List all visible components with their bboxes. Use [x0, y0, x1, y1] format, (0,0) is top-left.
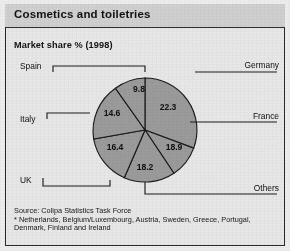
country-label-uk: UK [20, 175, 32, 185]
page-title: Cosmetics and toiletries [14, 8, 151, 20]
footnote-note-line-2: Denmark, Finland and Ireland [14, 224, 280, 233]
country-label-italy: Italy [20, 114, 36, 124]
leader-line-uk [43, 178, 110, 186]
slice-value-france: 18.9 [166, 142, 183, 152]
slice-value-uk: 16.4 [107, 142, 124, 152]
pie-chart-plot: 22.3 18.9 18.2 16.4 14.6 9.8 [5, 28, 285, 203]
country-label-germany: Germany [245, 60, 280, 70]
slice-value-italy: 14.6 [104, 108, 121, 118]
leader-line-italy [47, 113, 90, 119]
slice-value-others: 18.2 [137, 162, 154, 172]
country-label-others: Others [254, 183, 279, 193]
pie-chart-svg: 22.3 18.9 18.2 16.4 14.6 9.8 [5, 28, 285, 203]
footnote: Source: Colipa Statistics Task Force * N… [14, 207, 280, 233]
country-label-france: France [253, 111, 279, 121]
leader-line-spain [53, 66, 145, 72]
country-label-spain: Spain [20, 61, 42, 71]
chart-figure: Cosmetics and toiletries Market share % … [0, 0, 290, 251]
slice-value-germany: 22.3 [160, 102, 177, 112]
slice-value-spain: 9.8 [133, 84, 145, 94]
